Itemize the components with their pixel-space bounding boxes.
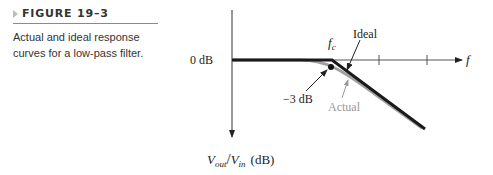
- minus3db-pointer: [306, 70, 327, 91]
- ideal-pointer: [347, 40, 360, 70]
- y-axis-label: Vout/Vin(dB): [207, 151, 274, 169]
- actual-pointer: [342, 80, 348, 98]
- response-diagram: 0 dB fc Ideal −3 dB Actual f Vout/Vin(dB…: [0, 0, 493, 175]
- x-axis-label: f: [466, 52, 472, 67]
- zero-db-label: 0 dB: [190, 53, 213, 67]
- fc-label: fc: [328, 35, 336, 52]
- minus3db-label: −3 dB: [283, 92, 313, 106]
- actual-label: Actual: [328, 100, 361, 114]
- ideal-label: Ideal: [353, 27, 378, 41]
- ideal-response-curve: [232, 60, 425, 129]
- minus3db-point: [328, 64, 334, 70]
